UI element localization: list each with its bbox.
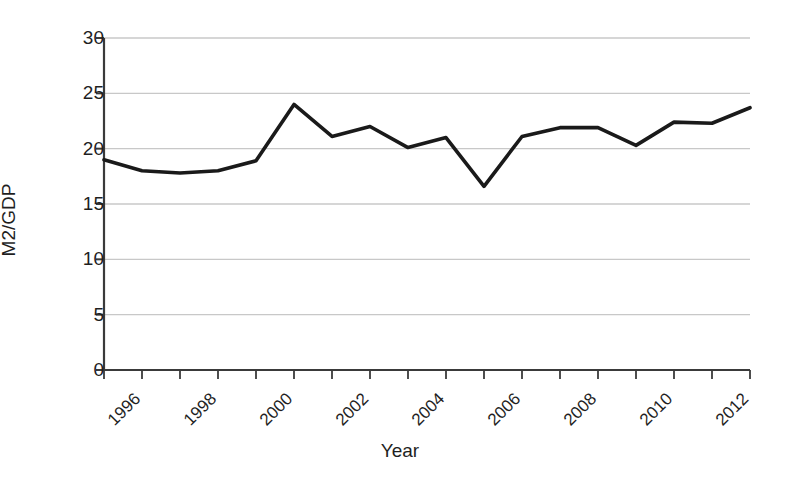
data-series-line	[104, 104, 750, 186]
y-tick-label: 30	[58, 28, 104, 47]
x-axis-label: Year	[0, 440, 800, 462]
y-axis-label: M2/GDP	[0, 120, 20, 320]
y-tick-label: 10	[58, 249, 104, 268]
y-tick-label: 20	[58, 139, 104, 158]
y-tick-label: 25	[58, 83, 104, 102]
y-tick-label: 15	[58, 194, 104, 213]
y-tick-label: 0	[58, 360, 104, 379]
chart-figure: M2/GDP 051015202530 19961998200020022004…	[0, 0, 800, 484]
y-tick-label: 5	[58, 305, 104, 324]
